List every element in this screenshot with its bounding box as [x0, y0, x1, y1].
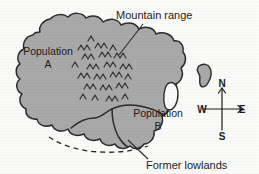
population-b-label: Population B	[127, 108, 189, 133]
compass-north-label: N	[216, 78, 228, 89]
population-b-id: B	[127, 121, 189, 133]
population-a-name: Population	[23, 45, 73, 57]
mountain-range-label: Mountain range	[116, 9, 192, 21]
population-b-name: Population	[133, 107, 183, 119]
former-lowlands-label: Former lowlands	[146, 159, 227, 171]
compass-south-label: S	[216, 131, 228, 142]
population-a-label: Population A	[17, 46, 79, 71]
compass-west-label: W	[196, 104, 208, 115]
offshore-island	[198, 64, 212, 87]
map-figure: Mountain range Former lowlands Populatio…	[0, 0, 259, 174]
population-a-id: A	[17, 59, 79, 71]
lagoon-inlet	[164, 83, 178, 110]
compass-east-label: E	[236, 104, 248, 115]
